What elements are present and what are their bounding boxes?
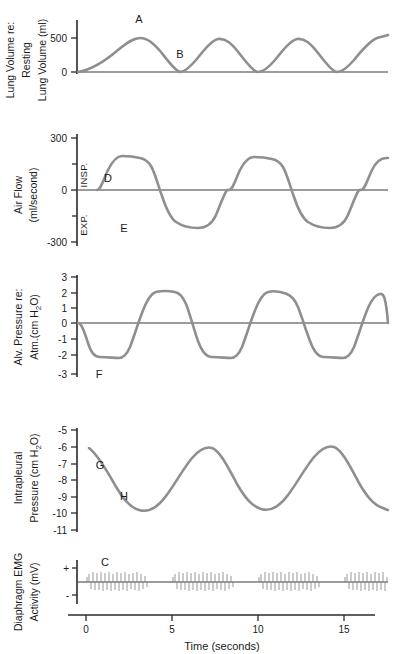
lung-volume-ticklabel-0: 0 xyxy=(61,67,67,78)
respiratory-physiology-figure: Lung Volume re: Resting Lung Volume (ml)… xyxy=(0,0,396,654)
lung-volume-trace xyxy=(78,35,388,72)
emg-ticklabel-plus: + xyxy=(63,563,69,574)
intrapleural-point-H: H xyxy=(120,490,128,502)
panel-diaphragm-emg: Diaphragm EMG Activity (mV) + - C xyxy=(12,553,388,631)
intrapleural-ylabel-line2: Pressure (cm H2O) xyxy=(28,433,43,522)
alv-ticklabel-2: 2 xyxy=(61,288,67,299)
alveolar-pressure-ylabel-line2: Atm.(cm H2O) xyxy=(28,294,43,360)
ipp-ticklabel-neg7: -7 xyxy=(58,459,67,470)
panel-intrapleural-pressure: Intrapleural Pressure (cm H2O) -5 -6 -7 … xyxy=(12,425,388,536)
intrapleural-pressure-trace xyxy=(89,446,388,510)
figure-svg: Lung Volume re: Resting Lung Volume (ml)… xyxy=(0,0,396,654)
air-flow-ylabel-line2: (ml/second) xyxy=(27,168,39,223)
alveolar-pressure-trace xyxy=(78,291,388,358)
emg-ylabel-line2: Activity (mV) xyxy=(28,563,40,622)
x-ticklabel-15: 15 xyxy=(338,624,350,635)
ipp-ticklabel-neg6: -6 xyxy=(58,442,67,453)
alv-ticklabel-neg1: -1 xyxy=(58,334,67,345)
air-flow-point-D: D xyxy=(104,172,112,184)
ipp-ticklabel-neg8: -8 xyxy=(58,475,67,486)
air-flow-point-E: E xyxy=(120,222,127,234)
x-axis-label: Time (seconds) xyxy=(184,640,259,652)
ipp-ticklabel-neg9: -9 xyxy=(58,492,67,503)
emg-ylabel-line1: Diaphragm EMG xyxy=(12,553,24,631)
air-flow-label-expiration: EXP. xyxy=(78,214,89,236)
alveolar-pressure-point-F: F xyxy=(96,368,103,380)
air-flow-trace xyxy=(97,156,388,228)
air-flow-ticklabel-neg300: -300 xyxy=(47,237,67,248)
intrapleural-ylabel-pre: Pressure (cm H xyxy=(28,450,40,523)
lung-volume-ylabel-line3: Lung Volume (ml) xyxy=(36,19,48,101)
panel-alveolar-pressure: Alv. Pressure re: Atm.(cm H2O) 3 2 1 0 -… xyxy=(12,272,388,380)
x-ticklabel-0: 0 xyxy=(83,624,89,635)
lung-volume-ylabel-line1: Lung Volume re: xyxy=(4,22,16,98)
lung-volume-ticklabel-500: 500 xyxy=(50,33,67,44)
lung-volume-ylabel: Lung Volume re: Resting Lung Volume (ml) xyxy=(4,19,48,101)
intrapleural-ylabel-post: O) xyxy=(28,433,40,445)
alv-ticklabel-1: 1 xyxy=(61,303,67,314)
alv-ticklabel-neg3: -3 xyxy=(58,369,67,380)
air-flow-ticklabel-0: 0 xyxy=(61,185,67,196)
ipp-ticklabel-neg5: -5 xyxy=(58,425,67,436)
x-ticklabel-10: 10 xyxy=(252,624,264,635)
air-flow-ylabel-line1: Air Flow xyxy=(12,176,24,214)
alveolar-pressure-ylabel-line1: Alv. Pressure re: xyxy=(12,289,24,366)
lung-volume-point-A: A xyxy=(135,13,143,25)
alv-ticklabel-0: 0 xyxy=(61,318,67,329)
intrapleural-point-G: G xyxy=(96,459,105,471)
alv-ticklabel-3: 3 xyxy=(61,272,67,283)
ipp-ticklabel-neg11: -11 xyxy=(53,525,67,536)
air-flow-label-inspiration: INSP. xyxy=(78,162,89,187)
emg-point-C: C xyxy=(101,556,109,568)
lung-volume-ylabel-line2: Resting xyxy=(20,42,32,78)
x-axis: 0 5 10 15 Time (seconds) xyxy=(68,615,375,652)
ipp-ticklabel-neg10: -10 xyxy=(53,508,68,519)
lung-volume-point-B: B xyxy=(176,48,183,60)
panel-lung-volume: Lung Volume re: Resting Lung Volume (ml)… xyxy=(4,13,388,101)
air-flow-ticklabel-300: 300 xyxy=(50,133,67,144)
alv-ticklabel-neg2: -2 xyxy=(58,350,67,361)
panel-air-flow: Air Flow (ml/second) 300 0 -300 INSP. EX… xyxy=(12,133,388,248)
x-ticklabel-5: 5 xyxy=(169,624,175,635)
air-flow-ylabel: Air Flow (ml/second) xyxy=(12,168,39,223)
emg-ticklabel-minus: - xyxy=(66,590,69,601)
alveolar-pressure-ylabel-post: O) xyxy=(28,294,40,306)
alveolar-pressure-ylabel-pre: Atm.(cm H xyxy=(28,310,40,360)
intrapleural-ylabel-line1: Intrapleural xyxy=(12,452,24,505)
